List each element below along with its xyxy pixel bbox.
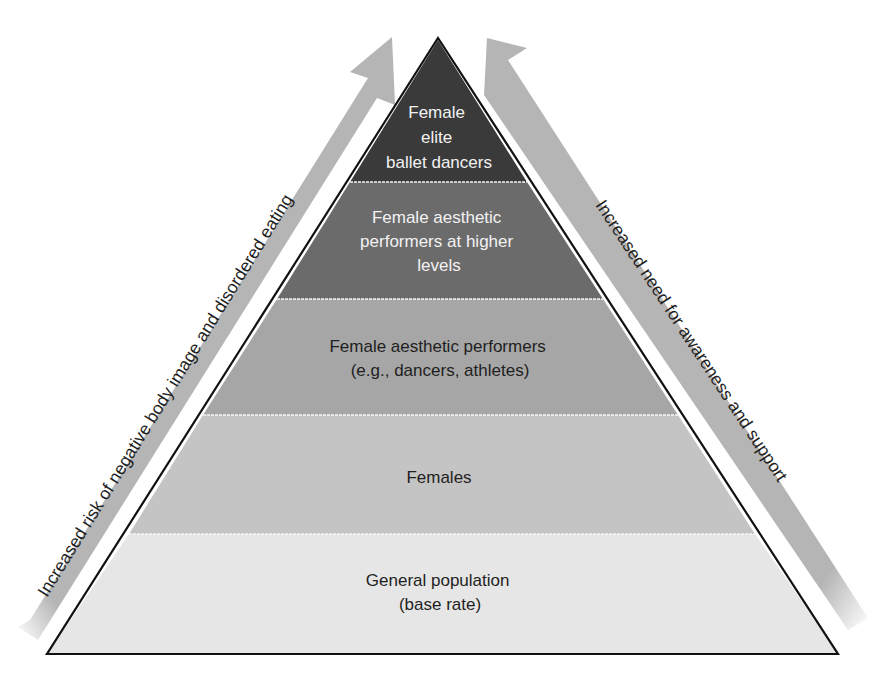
tier-3: [203, 299, 678, 415]
tier-4-label: Females: [406, 468, 471, 487]
pyramid-diagram: Increased risk of negative body image an…: [0, 0, 878, 685]
tier-5: [48, 534, 838, 653]
